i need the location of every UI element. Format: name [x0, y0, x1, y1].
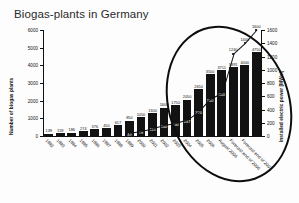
bar-value-label: 850 [126, 115, 133, 120]
bar-value-label: 274 [80, 126, 87, 131]
bar [90, 129, 99, 136]
bar-group: 186 [67, 30, 76, 136]
x-axis-tick-label: 2002 [159, 138, 169, 148]
bar-group: 1300 [148, 30, 157, 136]
y-axis-left-tick-label: 6000 [28, 28, 38, 33]
bar-group: 159 [56, 30, 65, 136]
bar-group: 850 [125, 30, 134, 136]
x-axis-tick-label: 1995 [79, 138, 89, 148]
bar [137, 117, 146, 136]
x-axis-tick-label: 2001 [148, 138, 158, 148]
bar [44, 134, 53, 136]
bar-value-label: 376 [92, 124, 99, 129]
y-axis-right-tick [262, 43, 265, 44]
y-axis-left-tick [40, 136, 43, 137]
bar-value-label: 1300 [148, 108, 157, 113]
x-axis-tick-label: 1998 [113, 138, 123, 148]
y-axis-right-tick-label: 1400 [267, 41, 277, 46]
bar-value-label: 617 [115, 120, 122, 125]
power-value-label: 1600 [252, 24, 261, 29]
y-axis-right-tick-label: 1600 [267, 28, 277, 33]
bar-group: 450 [102, 30, 111, 136]
bar-value-label: 139 [46, 128, 53, 133]
x-axis-tick-label: 1993 [56, 138, 66, 148]
chart-figure: Biogas-plants in Germany Number of bioga… [0, 0, 299, 203]
y-axis-right-tick [262, 30, 265, 31]
bar [79, 131, 88, 136]
y-axis-left-tick-label: 3000 [28, 81, 38, 86]
bar-group: 274 [79, 30, 88, 136]
bar-group: 1050 [137, 30, 146, 136]
y-axis-left-tick-label: 0 [35, 134, 38, 139]
bar-value-label: 1050 [137, 112, 146, 117]
x-axis-tick-label: 1999 [125, 138, 135, 148]
y-axis-left-label: Number of biogas plants [14, 32, 22, 135]
chart-title: Biogas-plants in Germany [14, 8, 149, 20]
x-axis-tick-label: 1994 [67, 138, 77, 148]
bar-value-label: 159 [57, 128, 64, 133]
bar-group: 617 [114, 30, 123, 136]
x-axis-tick-label: 1996 [90, 138, 100, 148]
bar-group: 376 [90, 30, 99, 136]
bar [148, 113, 157, 136]
bar-value-label: 450 [103, 123, 110, 128]
bar [125, 121, 134, 136]
bar [114, 125, 123, 136]
bar-group: 139 [44, 30, 53, 136]
bar [67, 133, 76, 136]
y-axis-left-tick-label: 1000 [28, 116, 38, 121]
bar-value-label: 186 [69, 127, 76, 132]
y-axis-left-tick-label: 4000 [28, 63, 38, 68]
x-axis-tick-label: 2000 [136, 138, 146, 148]
bar [102, 128, 111, 136]
y-axis-left-label-text: Number of biogas plants [9, 78, 14, 135]
bar [56, 133, 65, 136]
x-axis-tick-label: 1992 [44, 138, 54, 148]
y-axis-left-tick-label: 2000 [28, 98, 38, 103]
y-axis-left-tick-label: 5000 [28, 45, 38, 50]
x-axis-tick-label: 1997 [102, 138, 112, 148]
